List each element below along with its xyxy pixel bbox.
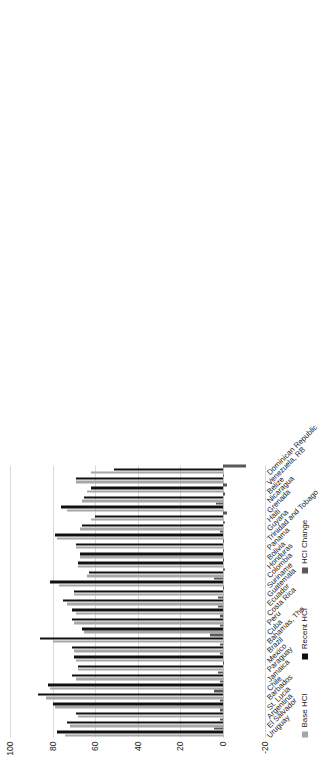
- bar-base: [87, 490, 223, 492]
- bar-base: [78, 715, 223, 717]
- chart-legend: Base HCIRecent HCIHCI Change: [300, 465, 309, 737]
- bar-group: [10, 578, 265, 587]
- bar-group: [10, 690, 265, 699]
- bar-recent: [84, 496, 222, 498]
- bar-group: [10, 559, 265, 568]
- legend-item: Base HCI: [300, 693, 309, 737]
- bar-base: [59, 584, 223, 586]
- bar-base: [57, 537, 223, 539]
- chart-figure: 100806040200-20 UruguayEl SalvadorArgent…: [0, 0, 336, 781]
- bar-group: [10, 568, 265, 577]
- bar-base: [82, 499, 222, 501]
- bar-group: [10, 700, 265, 709]
- bar-base: [74, 621, 223, 623]
- bar-group: [10, 587, 265, 596]
- bar-recent: [55, 533, 223, 535]
- bar-base: [53, 640, 223, 642]
- bar-recent: [72, 646, 223, 648]
- legend-label: Base HCI: [300, 693, 309, 727]
- bar-recent: [53, 702, 223, 704]
- bar-base: [91, 518, 223, 520]
- bar-recent: [74, 590, 223, 592]
- bar-base: [80, 527, 222, 529]
- bar-base: [55, 706, 223, 708]
- value-tick-label: 100: [5, 741, 15, 755]
- bar-base: [67, 602, 222, 604]
- bar-group: [10, 474, 265, 483]
- bar-base: [76, 612, 223, 614]
- bar-recent: [72, 674, 223, 676]
- bar-recent: [80, 552, 222, 554]
- legend-item: Recent HCI: [300, 607, 309, 658]
- bar-group: [10, 653, 265, 662]
- bar-recent: [76, 712, 223, 714]
- legend-swatch-icon: [302, 731, 308, 737]
- bar-group: [10, 643, 265, 652]
- bar-base: [80, 555, 222, 557]
- category-label: Dominican Republic: [265, 422, 319, 476]
- bar-recent: [95, 515, 223, 517]
- bar-recent: [48, 683, 222, 685]
- bar-recent: [114, 468, 222, 470]
- bar-base: [87, 574, 223, 576]
- bar-recent: [74, 655, 223, 657]
- bar-base: [76, 659, 223, 661]
- bar-group: [10, 521, 265, 530]
- bar-group: [10, 728, 265, 737]
- bar-group: [10, 709, 265, 718]
- bar-base: [91, 471, 223, 473]
- bar-recent: [78, 561, 223, 563]
- legend-swatch-icon: [302, 567, 308, 573]
- legend-swatch-icon: [302, 653, 308, 659]
- bar-change: [223, 464, 246, 466]
- bar-group: [10, 503, 265, 512]
- bar-group: [10, 681, 265, 690]
- bar-recent: [82, 627, 222, 629]
- bar-base: [78, 668, 223, 670]
- bar-recent: [76, 543, 223, 545]
- bar-base: [84, 630, 222, 632]
- bar-base: [74, 649, 223, 651]
- bar-group: [10, 549, 265, 558]
- bar-base: [78, 565, 223, 567]
- bar-recent: [89, 571, 223, 573]
- value-tick-label: 40: [133, 741, 143, 750]
- bar-base: [50, 687, 222, 689]
- bar-base: [76, 546, 223, 548]
- bar-base: [70, 724, 223, 726]
- value-tick-label: 60: [90, 741, 100, 750]
- bar-group: [10, 531, 265, 540]
- bar-group: [10, 615, 265, 624]
- bar-group: [10, 465, 265, 474]
- bar-recent: [72, 618, 223, 620]
- bar-group: [10, 512, 265, 521]
- bar-recent: [76, 477, 223, 479]
- bar-recent: [78, 665, 223, 667]
- legend-label: Recent HCI: [300, 607, 309, 648]
- bar-recent: [82, 524, 222, 526]
- bar-group: [10, 493, 265, 502]
- bar-recent: [63, 599, 222, 601]
- bar-recent: [72, 608, 223, 610]
- bars-layer: [10, 465, 265, 737]
- bar-group: [10, 606, 265, 615]
- bar-group: [10, 662, 265, 671]
- bar-base: [74, 593, 223, 595]
- bar-recent: [61, 505, 223, 507]
- bar-base: [67, 509, 222, 511]
- bar-group: [10, 718, 265, 727]
- bar-group: [10, 671, 265, 680]
- legend-label: HCI Change: [300, 519, 309, 563]
- bar-recent: [38, 693, 223, 695]
- legend-item: HCI Change: [300, 519, 309, 573]
- value-tick-label: 0: [218, 741, 228, 746]
- bar-base: [76, 480, 223, 482]
- bar-group: [10, 624, 265, 633]
- bar-base: [65, 734, 222, 736]
- bar-recent: [57, 730, 223, 732]
- plot-area: [10, 465, 265, 737]
- value-tick-label: 80: [48, 741, 58, 750]
- bar-group: [10, 634, 265, 643]
- bar-base: [46, 696, 222, 698]
- value-tick-label: 20: [175, 741, 185, 750]
